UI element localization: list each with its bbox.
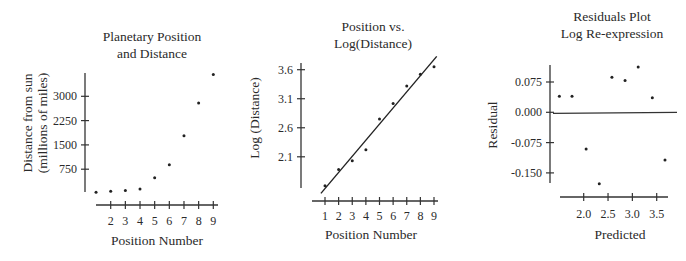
- data-point: [351, 159, 354, 162]
- chart1-y-ticks: 750150022503000: [53, 89, 89, 176]
- figure-panel: Planetary Position and Distance Distance…: [0, 0, 686, 261]
- x-tick-label: 2: [336, 209, 342, 223]
- y-tick-label: 3.6: [278, 63, 293, 77]
- x-tick-label: 3.5: [649, 207, 664, 221]
- x-tick-label: 8: [417, 209, 423, 223]
- data-point: [392, 102, 395, 105]
- chart2-xlabel: Position Number: [325, 227, 417, 242]
- y-tick-label: 3000: [53, 89, 77, 103]
- x-tick-label: 9: [431, 209, 437, 223]
- data-point: [364, 148, 367, 151]
- data-point: [624, 79, 627, 82]
- x-tick-label: 4: [137, 214, 143, 228]
- x-tick-label: 2.0: [576, 207, 591, 221]
- chart1-xlabel: Position Number: [111, 233, 203, 248]
- x-tick-label: 9: [210, 214, 216, 228]
- chart-residuals: Residuals Plot Log Re-expression Residua…: [485, 9, 677, 242]
- chart2-title-line1: Position vs.: [341, 19, 404, 34]
- x-tick-label: 3.0: [625, 207, 640, 221]
- chart3-points: [558, 66, 667, 186]
- data-point: [324, 184, 327, 187]
- data-point: [405, 84, 408, 87]
- data-point: [585, 148, 588, 151]
- x-tick-label: 3: [122, 214, 128, 228]
- data-point: [153, 176, 156, 179]
- data-point: [378, 118, 381, 121]
- x-tick-label: 5: [377, 209, 383, 223]
- data-point: [109, 190, 112, 193]
- x-tick-label: 7: [181, 214, 187, 228]
- y-tick-label: -0.150: [511, 166, 542, 180]
- chart1-title-line1: Planetary Position: [103, 29, 202, 44]
- data-point: [571, 95, 574, 98]
- data-point: [197, 101, 200, 104]
- data-point: [124, 189, 127, 192]
- chart1-title-line2: and Distance: [117, 46, 187, 61]
- data-point: [337, 168, 340, 171]
- chart3-ylabel: Residual: [485, 101, 500, 148]
- y-tick-label: 1500: [53, 138, 77, 152]
- data-point: [598, 182, 601, 185]
- x-tick-label: 2.5: [601, 207, 616, 221]
- data-point: [182, 134, 185, 137]
- data-point: [610, 76, 613, 79]
- x-tick-label: 8: [196, 214, 202, 228]
- x-tick-label: 6: [390, 209, 396, 223]
- chart3-y-ticks: 0.0750.000-0.075-0.150: [511, 75, 554, 180]
- chart2-points: [324, 65, 436, 187]
- y-tick-label: 3.1: [278, 92, 293, 106]
- chart-planetary-distance: Planetary Position and Distance Distance…: [20, 29, 218, 248]
- x-tick-label: 6: [166, 214, 172, 228]
- chart2-title-line2: Log(Distance): [334, 36, 412, 51]
- x-tick-label: 2: [108, 214, 114, 228]
- chart1-points: [95, 73, 215, 194]
- data-point: [139, 187, 142, 190]
- chart3-xlabel: Predicted: [595, 227, 646, 242]
- x-tick-label: 3: [349, 209, 355, 223]
- chart3-title-line1: Residuals Plot: [573, 9, 651, 24]
- y-tick-label: 750: [59, 162, 77, 176]
- y-tick-label: -0.075: [511, 136, 542, 150]
- chart-position-vs-log-distance: Position vs. Log(Distance) Log (Distance…: [247, 19, 438, 242]
- data-point: [558, 95, 561, 98]
- x-tick-label: 7: [404, 209, 410, 223]
- chart2-regression-line: [321, 56, 437, 193]
- y-tick-label: 2250: [53, 114, 77, 128]
- y-tick-label: 2.6: [278, 121, 293, 135]
- chart3-zero-reference-line: [553, 112, 677, 113]
- y-tick-label: 0.000: [515, 105, 542, 119]
- x-tick-label: 1: [322, 209, 328, 223]
- chart2-ylabel: Log (Distance): [247, 77, 262, 158]
- data-point: [212, 73, 215, 76]
- data-point: [168, 163, 171, 166]
- chart1-ylabel-line1: Distance from sun: [20, 73, 35, 172]
- data-point: [433, 65, 436, 68]
- chart3-title-line2: Log Re-expression: [561, 26, 664, 41]
- data-point: [663, 158, 666, 161]
- x-tick-label: 5: [152, 214, 158, 228]
- chart1-ylabel-line2: (millions of miles): [35, 73, 50, 174]
- data-point: [419, 73, 422, 76]
- data-point: [651, 96, 654, 99]
- data-point: [95, 191, 98, 194]
- x-tick-label: 4: [363, 209, 369, 223]
- data-point: [637, 66, 640, 69]
- y-tick-label: 2.1: [278, 150, 293, 164]
- y-tick-label: 0.075: [515, 75, 542, 89]
